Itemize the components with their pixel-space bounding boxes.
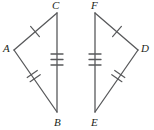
- triangle-def: [89, 13, 138, 112]
- vertex-label-f: F: [91, 0, 98, 11]
- vertex-label-a: A: [3, 43, 10, 54]
- geometry-figure: A C B F D E: [0, 0, 154, 130]
- vertex-label-c: C: [52, 0, 59, 11]
- triangle-abc: [14, 13, 63, 112]
- vertex-label-e: E: [91, 117, 98, 128]
- geometry-canvas: [0, 0, 154, 130]
- vertex-label-b: B: [54, 117, 61, 128]
- vertex-label-d: D: [141, 43, 149, 54]
